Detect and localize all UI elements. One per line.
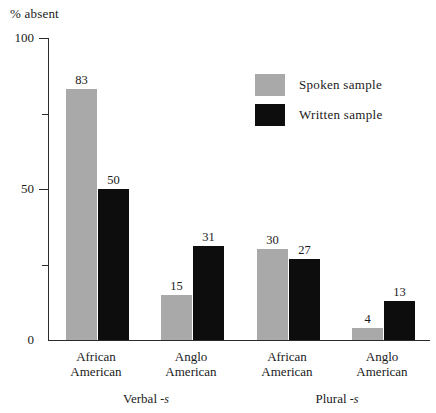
category-label-verbal-african: African American	[56, 349, 136, 380]
legend-item-spoken[interactable]: Spoken sample	[255, 70, 382, 100]
bar-plural-anglo-spoken[interactable]	[352, 328, 383, 340]
y-tick-50	[39, 189, 48, 190]
category-label-line2: American	[151, 364, 231, 379]
group-label-plural: Plural -s	[294, 391, 380, 407]
legend-swatch-spoken-icon	[255, 74, 285, 96]
bar-value-plural-african-written: 27	[289, 244, 320, 257]
group-label-verbal: Verbal -s	[103, 391, 189, 407]
category-label-line1: Anglo	[151, 349, 231, 364]
group-label-suffix: -s	[350, 392, 359, 406]
group-label-suffix: -s	[160, 392, 169, 406]
legend-label-written: Written sample	[299, 107, 382, 123]
y-tick-label-0: 0	[0, 333, 34, 346]
bar-verbal-african-written[interactable]	[98, 189, 129, 340]
group-label-text: Verbal	[123, 391, 157, 406]
y-axis-title: % absent	[10, 6, 59, 22]
bar-value-verbal-anglo-written: 31	[193, 231, 224, 244]
category-label-line2: American	[342, 364, 422, 379]
bar-value-verbal-african-spoken: 83	[66, 74, 97, 87]
category-label-verbal-anglo: Anglo American	[151, 349, 231, 380]
bar-plural-african-spoken[interactable]	[257, 249, 288, 340]
bar-verbal-african-spoken[interactable]	[66, 89, 97, 340]
category-label-plural-african: African American	[247, 349, 327, 380]
bar-value-plural-african-spoken: 30	[257, 234, 288, 247]
legend-swatch-written-icon	[255, 104, 285, 126]
bar-verbal-anglo-spoken[interactable]	[161, 295, 192, 340]
y-tick-label-50: 50	[0, 182, 34, 195]
legend-item-written[interactable]: Written sample	[255, 100, 382, 130]
category-label-line1: African	[56, 349, 136, 364]
bar-chart: % absent 100 50 0 83 50 15 31 30 27 4 13	[0, 0, 436, 413]
bar-value-plural-anglo-written: 13	[384, 286, 415, 299]
category-label-line2: American	[56, 364, 136, 379]
y-tick-label-100: 100	[0, 31, 34, 44]
bar-value-verbal-african-written: 50	[98, 174, 129, 187]
bar-plural-anglo-written[interactable]	[384, 301, 415, 340]
category-label-line2: American	[247, 364, 327, 379]
category-label-plural-anglo: Anglo American	[342, 349, 422, 380]
legend: Spoken sample Written sample	[255, 70, 382, 130]
legend-label-spoken: Spoken sample	[299, 77, 382, 93]
group-label-text: Plural	[316, 391, 347, 406]
category-label-line1: Anglo	[342, 349, 422, 364]
bar-plural-african-written[interactable]	[289, 259, 320, 341]
category-label-line1: African	[247, 349, 327, 364]
y-tick-100	[39, 38, 48, 39]
x-axis-line	[48, 340, 430, 341]
bar-value-plural-anglo-spoken: 4	[352, 313, 383, 326]
bar-value-verbal-anglo-spoken: 15	[161, 280, 192, 293]
bar-verbal-anglo-written[interactable]	[193, 246, 224, 340]
